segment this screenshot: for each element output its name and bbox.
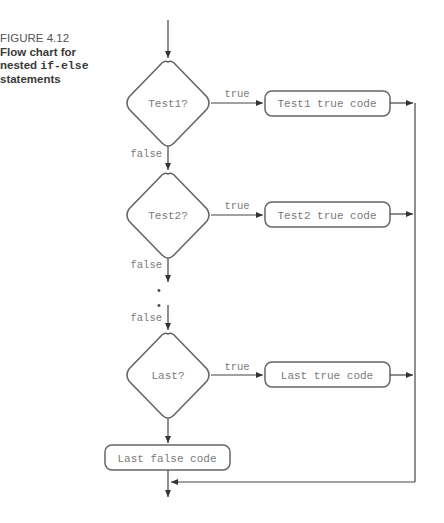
true-label-last: true bbox=[224, 361, 249, 373]
ellipsis-dot-2: • bbox=[156, 300, 162, 312]
false-label-test2: false bbox=[130, 259, 162, 271]
box-label-last-false: Last false code bbox=[117, 453, 216, 465]
false-label-test1: false bbox=[130, 148, 162, 160]
flowchart: Test1? true Test1 true code false Test2?… bbox=[0, 0, 444, 523]
decision-label-test2: Test2? bbox=[148, 210, 188, 222]
box-label-last-true: Last true code bbox=[281, 370, 373, 382]
ellipsis-dot-1: • bbox=[156, 285, 162, 297]
decision-label-last: Last? bbox=[151, 370, 184, 382]
box-label-test1-true: Test1 true code bbox=[277, 98, 376, 110]
box-label-test2-true: Test2 true code bbox=[277, 210, 376, 222]
decision-label-test1: Test1? bbox=[148, 98, 188, 110]
false-label-continuation: false bbox=[130, 312, 162, 324]
true-label-test2: true bbox=[224, 200, 249, 212]
true-label-test1: true bbox=[224, 88, 249, 100]
